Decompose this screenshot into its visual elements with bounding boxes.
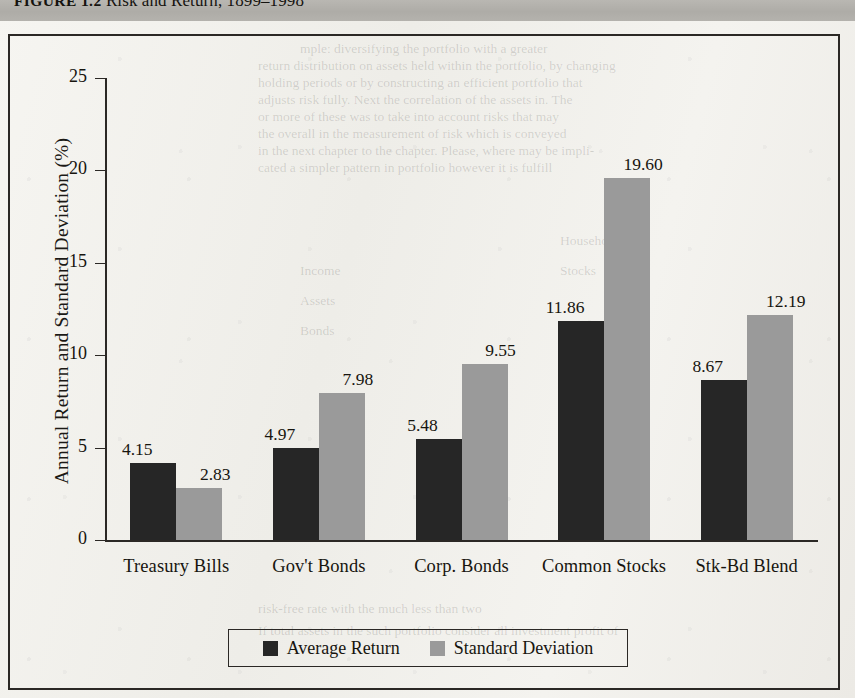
figure-caption-band: FIGURE 1.2 Risk and Return, 1899–1998 (0, 0, 855, 21)
figure-number: FIGURE 1.2 (14, 0, 102, 9)
figure-caption: FIGURE 1.2 Risk and Return, 1899–1998 (14, 0, 304, 11)
legend-swatch-icon (263, 641, 278, 656)
figure-frame (8, 34, 840, 690)
legend-label: Standard Deviation (454, 638, 593, 659)
legend-label: Average Return (287, 638, 400, 659)
legend-item-standard-deviation: Standard Deviation (430, 638, 593, 659)
legend-swatch-icon (430, 641, 445, 656)
legend-item-average-return: Average Return (263, 638, 400, 659)
chart-legend: Average Return Standard Deviation (228, 629, 628, 667)
figure-title: Risk and Return, 1899–1998 (106, 0, 304, 10)
